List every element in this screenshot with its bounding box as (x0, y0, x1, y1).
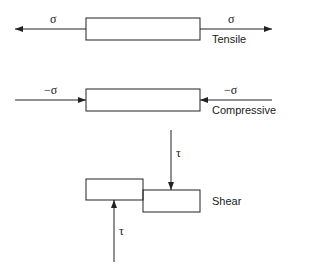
compressive-label: Compressive (212, 104, 276, 116)
shear-top-symbol: τ (176, 146, 181, 161)
shear-label: Shear (212, 195, 241, 207)
shear-group (86, 130, 200, 262)
shear-right-block (143, 190, 200, 212)
compressive-right-symbol: −σ (224, 83, 237, 98)
tensile-label: Tensile (212, 33, 246, 45)
tensile-left-symbol: σ (50, 12, 56, 27)
shear-bottom-symbol: τ (119, 224, 124, 239)
shear-left-block (86, 179, 143, 200)
tensile-bar (86, 18, 200, 40)
compressive-bar (86, 89, 200, 111)
tensile-right-symbol: σ (228, 12, 234, 27)
compressive-left-symbol: −σ (44, 83, 57, 98)
